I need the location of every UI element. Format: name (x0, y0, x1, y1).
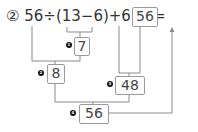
problem-number: ② (6, 7, 19, 25)
step-marker-2: 2 (38, 70, 44, 76)
step-marker-1: 1 (66, 42, 72, 48)
step-1-result-box: 7 (74, 37, 90, 56)
step-2-value: 8 (52, 65, 61, 81)
step-3-value: 48 (121, 77, 139, 93)
step-4-result-box: 56 (79, 104, 109, 124)
answer-value: 56 (136, 8, 154, 24)
step-marker-4: 4 (70, 110, 76, 116)
arrow-up-icon (170, 27, 175, 32)
step-4-value: 56 (85, 105, 103, 121)
step-3-result-box: 48 (115, 76, 145, 95)
answer-box: 56 (132, 7, 158, 27)
step-2-result-box: 8 (47, 64, 65, 84)
step-marker-3: 3 (107, 81, 113, 87)
step-1-value: 7 (78, 38, 87, 54)
